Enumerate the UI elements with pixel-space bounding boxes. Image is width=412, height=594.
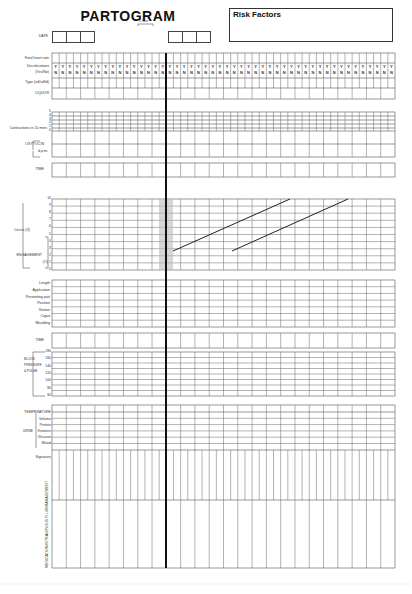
yes-mark[interactable]: Y: [202, 65, 209, 69]
no-mark[interactable]: N: [238, 71, 245, 75]
yes-mark[interactable]: Y: [338, 65, 345, 69]
yes-mark[interactable]: Y: [302, 65, 309, 69]
no-mark[interactable]: N: [66, 71, 73, 75]
no-mark[interactable]: N: [295, 71, 302, 75]
yes-mark[interactable]: Y: [245, 65, 252, 69]
no-mark[interactable]: N: [52, 71, 59, 75]
no-mark[interactable]: N: [259, 71, 266, 75]
no-mark[interactable]: N: [281, 71, 288, 75]
yes-mark[interactable]: Y: [366, 65, 373, 69]
no-mark[interactable]: N: [324, 71, 331, 75]
yes-mark[interactable]: Y: [102, 65, 109, 69]
no-mark[interactable]: N: [331, 71, 338, 75]
yes-mark[interactable]: Y: [324, 65, 331, 69]
yes-mark[interactable]: Y: [152, 65, 159, 69]
yes-mark[interactable]: Y: [352, 65, 359, 69]
no-mark[interactable]: N: [231, 71, 238, 75]
yes-mark[interactable]: Y: [209, 65, 216, 69]
yes-mark[interactable]: Y: [309, 65, 316, 69]
yes-mark[interactable]: Y: [173, 65, 180, 69]
yes-mark[interactable]: Y: [259, 65, 266, 69]
partogram-grid[interactable]: [0, 0, 412, 594]
vitals-tick: 180: [38, 350, 51, 353]
no-mark[interactable]: N: [131, 71, 138, 75]
no-mark[interactable]: N: [338, 71, 345, 75]
yes-mark[interactable]: Y: [316, 65, 323, 69]
yes-mark[interactable]: Y: [95, 65, 102, 69]
no-mark[interactable]: N: [95, 71, 102, 75]
yes-mark[interactable]: Y: [188, 65, 195, 69]
yes-mark[interactable]: Y: [59, 65, 66, 69]
no-mark[interactable]: N: [173, 71, 180, 75]
no-mark[interactable]: N: [102, 71, 109, 75]
yes-mark[interactable]: Y: [116, 65, 123, 69]
no-mark[interactable]: N: [352, 71, 359, 75]
yes-mark[interactable]: Y: [81, 65, 88, 69]
no-mark[interactable]: N: [366, 71, 373, 75]
yes-mark[interactable]: Y: [138, 65, 145, 69]
no-mark[interactable]: N: [345, 71, 352, 75]
yes-mark[interactable]: Y: [345, 65, 352, 69]
no-mark[interactable]: N: [166, 71, 173, 75]
no-mark[interactable]: N: [288, 71, 295, 75]
yes-mark[interactable]: Y: [131, 65, 138, 69]
no-mark[interactable]: N: [274, 71, 281, 75]
yes-mark[interactable]: Y: [224, 65, 231, 69]
no-mark[interactable]: N: [224, 71, 231, 75]
no-mark[interactable]: N: [73, 71, 80, 75]
no-mark[interactable]: N: [202, 71, 209, 75]
no-mark[interactable]: N: [316, 71, 323, 75]
cervix-tick: 9: [38, 204, 51, 207]
no-mark[interactable]: N: [188, 71, 195, 75]
yes-mark[interactable]: Y: [88, 65, 95, 69]
no-mark[interactable]: N: [388, 71, 395, 75]
yes-mark[interactable]: Y: [195, 65, 202, 69]
no-mark[interactable]: N: [81, 71, 88, 75]
yes-mark[interactable]: Y: [216, 65, 223, 69]
yes-mark[interactable]: Y: [295, 65, 302, 69]
yes-mark[interactable]: Y: [231, 65, 238, 69]
yes-mark[interactable]: Y: [381, 65, 388, 69]
no-mark[interactable]: N: [88, 71, 95, 75]
yes-mark[interactable]: Y: [73, 65, 80, 69]
no-mark[interactable]: N: [145, 71, 152, 75]
no-mark[interactable]: N: [381, 71, 388, 75]
no-mark[interactable]: N: [152, 71, 159, 75]
no-mark[interactable]: N: [209, 71, 216, 75]
no-mark[interactable]: N: [302, 71, 309, 75]
yes-mark[interactable]: Y: [238, 65, 245, 69]
no-mark[interactable]: N: [181, 71, 188, 75]
yes-mark[interactable]: Y: [145, 65, 152, 69]
no-mark[interactable]: N: [359, 71, 366, 75]
cervix-tick: 3: [38, 247, 51, 250]
no-mark[interactable]: N: [195, 71, 202, 75]
yes-mark[interactable]: Y: [66, 65, 73, 69]
no-mark[interactable]: N: [159, 71, 166, 75]
yes-mark[interactable]: Y: [288, 65, 295, 69]
yes-mark[interactable]: Y: [359, 65, 366, 69]
yes-mark[interactable]: Y: [374, 65, 381, 69]
no-mark[interactable]: N: [109, 71, 116, 75]
yes-mark[interactable]: Y: [52, 65, 59, 69]
no-mark[interactable]: N: [216, 71, 223, 75]
no-mark[interactable]: N: [309, 71, 316, 75]
yes-mark[interactable]: Y: [109, 65, 116, 69]
no-mark[interactable]: N: [266, 71, 273, 75]
yes-mark[interactable]: Y: [281, 65, 288, 69]
yes-mark[interactable]: Y: [331, 65, 338, 69]
no-mark[interactable]: N: [245, 71, 252, 75]
yes-mark[interactable]: Y: [159, 65, 166, 69]
no-mark[interactable]: N: [374, 71, 381, 75]
no-mark[interactable]: N: [138, 71, 145, 75]
yes-mark[interactable]: Y: [274, 65, 281, 69]
yes-mark[interactable]: Y: [123, 65, 130, 69]
no-mark[interactable]: N: [123, 71, 130, 75]
yes-mark[interactable]: Y: [266, 65, 273, 69]
yes-mark[interactable]: Y: [252, 65, 259, 69]
yes-mark[interactable]: Y: [388, 65, 395, 69]
yes-mark[interactable]: Y: [166, 65, 173, 69]
yes-mark[interactable]: Y: [181, 65, 188, 69]
no-mark[interactable]: N: [252, 71, 259, 75]
no-mark[interactable]: N: [116, 71, 123, 75]
no-mark[interactable]: N: [59, 71, 66, 75]
